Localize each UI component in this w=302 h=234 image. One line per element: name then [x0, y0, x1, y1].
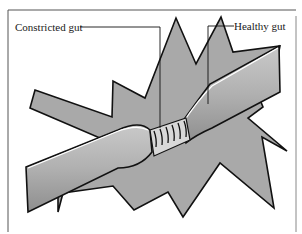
diagram-illustration [0, 0, 302, 234]
label-healthy-gut: Healthy gut [234, 20, 286, 32]
label-constricted-gut: Constricted gut [15, 21, 83, 33]
gut-diagram: Constricted gut Healthy gut [0, 0, 302, 234]
